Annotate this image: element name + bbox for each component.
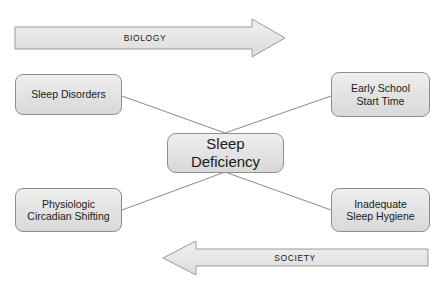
- node-early-school-start-time[interactable]: Early School Start Time: [331, 72, 430, 117]
- node-physiologic-circadian-shifting[interactable]: Physiologic Circadian Shifting: [15, 188, 122, 232]
- biology-arrow-label: BIOLOGY: [100, 33, 190, 43]
- node-sleep-deficiency[interactable]: Sleep Deficiency: [167, 133, 284, 173]
- node-sleep-disorders[interactable]: Sleep Disorders: [15, 74, 122, 115]
- society-arrow-label: SOCIETY: [250, 253, 340, 263]
- diagram-canvas: BIOLOGY SOCIETY Sleep Disorders Early Sc…: [0, 0, 445, 282]
- node-inadequate-sleep-hygiene[interactable]: Inadequate Sleep Hygiene: [331, 188, 430, 232]
